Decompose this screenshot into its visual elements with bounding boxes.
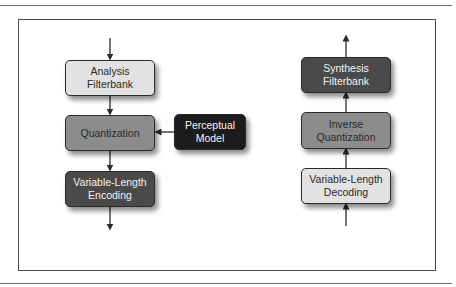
block-label-line2: Model (196, 132, 225, 144)
block-label-line2: Decoding (324, 186, 368, 198)
block-label-line2: Filterbank (87, 78, 133, 90)
block-label-line1: Quantization (81, 127, 140, 139)
block-label-line1: Inverse (329, 118, 363, 130)
block-label-line1: Variable-Length (73, 176, 146, 188)
perceptual-model-block: PerceptualModel (174, 114, 246, 150)
quantization-block: Quantization (65, 115, 155, 151)
block-label-line1: Synthesis (323, 62, 369, 74)
variable-length-encoding-block: Variable-LengthEncoding (65, 171, 155, 207)
block-label-line1: Analysis (90, 65, 129, 77)
block-label-line1: Variable-Length (309, 173, 382, 185)
block-label-line1: Perceptual (185, 119, 235, 131)
block-label-line2: Encoding (88, 189, 132, 201)
synthesis-filterbank-block: SynthesisFilterbank (301, 57, 391, 93)
block-label-line2: Quantization (317, 131, 376, 143)
block-label-line2: Filterbank (323, 75, 369, 87)
variable-length-decoding-block: Variable-LengthDecoding (301, 168, 391, 204)
analysis-filterbank-block: AnalysisFilterbank (65, 60, 155, 96)
inverse-quantization-block: InverseQuantization (301, 112, 391, 149)
